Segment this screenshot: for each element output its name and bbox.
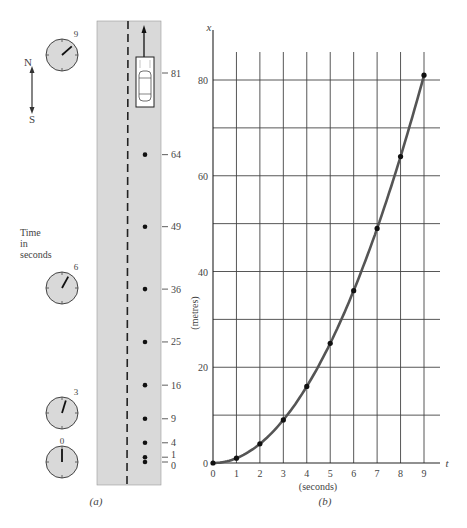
panel-a-road-diagram: N S Time in seconds 9630 8 (20, 21, 181, 508)
car-position-dot (143, 224, 148, 229)
x-tick-label: 9 (422, 468, 427, 479)
time-label-line-3: seconds (20, 249, 52, 260)
car-position-dot (143, 440, 148, 445)
time-label-line-1: Time (20, 227, 41, 238)
car-position-dot (143, 460, 148, 465)
x-tick-label: 8 (398, 468, 403, 479)
x-tick-label: 4 (304, 468, 309, 479)
compass-south-label: S (29, 113, 35, 125)
road-marker-label: 81 (171, 68, 181, 79)
x-tick-label: 3 (281, 468, 286, 479)
x-axis-label: (seconds) (299, 481, 337, 493)
data-point (304, 384, 309, 389)
car-position-dot (143, 340, 148, 345)
x-axis-symbol: t (445, 457, 449, 469)
panel-a-caption: (a) (90, 495, 103, 508)
road-marker-label: 9 (171, 413, 176, 424)
x-tick-label: 2 (257, 468, 262, 479)
road-marker-label: 36 (171, 284, 181, 295)
road-marker-label: 0 (171, 460, 176, 471)
x-tick-label: 6 (351, 468, 356, 479)
road-marker-label: 16 (171, 380, 181, 391)
figure: N S Time in seconds 9630 8 (0, 0, 467, 528)
data-point (375, 226, 380, 231)
clock-icon: 6 (46, 262, 79, 304)
position-curve (213, 75, 424, 463)
y-tick-label: 60 (198, 171, 208, 182)
data-points (210, 73, 426, 466)
car-position-dot (143, 287, 148, 292)
road-marker-label: 25 (171, 336, 181, 347)
clock-time-label: 9 (74, 29, 79, 39)
x-tick-label: 5 (328, 468, 333, 479)
x-tick-label: 0 (211, 468, 216, 479)
compass-arrow: N S (24, 56, 35, 125)
data-point (328, 341, 333, 346)
car-position-dot (143, 383, 148, 388)
y-tick-label: 20 (198, 362, 208, 373)
car-position-dot (143, 416, 148, 421)
chart-grid (213, 52, 440, 463)
road-marker-label: 64 (171, 149, 181, 160)
road-marker-label: 49 (171, 221, 181, 232)
data-point (234, 456, 239, 461)
y-tick-label: 40 (198, 267, 208, 278)
car-position-dot (143, 455, 148, 460)
panel-b-caption: (b) (319, 495, 332, 508)
clock-icon: 0 (46, 436, 78, 478)
compass-north-label: N (24, 56, 32, 68)
y-axis-label: (metres) (189, 296, 201, 329)
road-marker-label: 1 (171, 449, 176, 460)
data-point (398, 154, 403, 159)
clock-time-label: 6 (74, 262, 79, 272)
y-axis-symbol: x (206, 21, 212, 33)
data-point (351, 288, 356, 293)
car-position-dot (143, 152, 148, 157)
data-point (210, 460, 215, 465)
data-point (421, 73, 426, 78)
data-point (281, 417, 286, 422)
y-tick-label: 80 (198, 75, 208, 86)
clock-time-label: 3 (74, 387, 79, 397)
clock-time-label: 0 (60, 436, 65, 446)
y-tick-label: 0 (203, 458, 208, 469)
clock-icon: 3 (46, 387, 79, 429)
data-point (257, 441, 262, 446)
axis-tick-labels: 0123456789020406080 (198, 75, 427, 479)
clock-icon: 9 (46, 29, 79, 71)
panel-b-position-time-chart: x t 0123456789020406080 (metres) (second… (189, 21, 449, 508)
x-tick-label: 7 (375, 468, 380, 479)
time-in-seconds-label: Time in seconds (20, 227, 52, 260)
time-label-line-2: in (20, 238, 28, 249)
road-marker-label: 4 (171, 437, 176, 448)
x-tick-label: 1 (234, 468, 239, 479)
